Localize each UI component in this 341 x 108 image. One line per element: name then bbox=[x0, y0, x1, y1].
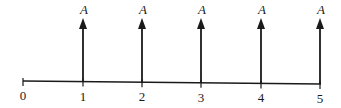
time-axis bbox=[23, 78, 321, 89]
arrow-head-icon bbox=[257, 18, 265, 29]
cash-flow-diagram: 01A2A3A4A5A bbox=[0, 0, 341, 108]
period-label: 3 bbox=[198, 90, 205, 105]
period-labels: 01A2A3A4A5A bbox=[20, 2, 325, 106]
cash-flow-label: A bbox=[79, 2, 88, 17]
cash-flow-label: A bbox=[257, 2, 266, 17]
period-label: 4 bbox=[258, 90, 265, 105]
arrow-head-icon bbox=[316, 18, 324, 29]
arrow-head-icon bbox=[197, 18, 205, 29]
axis-line bbox=[23, 81, 321, 84]
period-label: 2 bbox=[139, 89, 146, 104]
cash-flow-label: A bbox=[316, 2, 325, 17]
cash-flow-arrows bbox=[79, 18, 324, 84]
cash-flow-label: A bbox=[197, 2, 206, 17]
arrow-head-icon bbox=[138, 18, 146, 29]
period-label: 0 bbox=[20, 88, 27, 103]
cash-flow-label: A bbox=[138, 2, 147, 17]
period-label: 5 bbox=[317, 91, 324, 106]
period-label: 1 bbox=[80, 89, 87, 104]
arrow-head-icon bbox=[79, 18, 87, 29]
